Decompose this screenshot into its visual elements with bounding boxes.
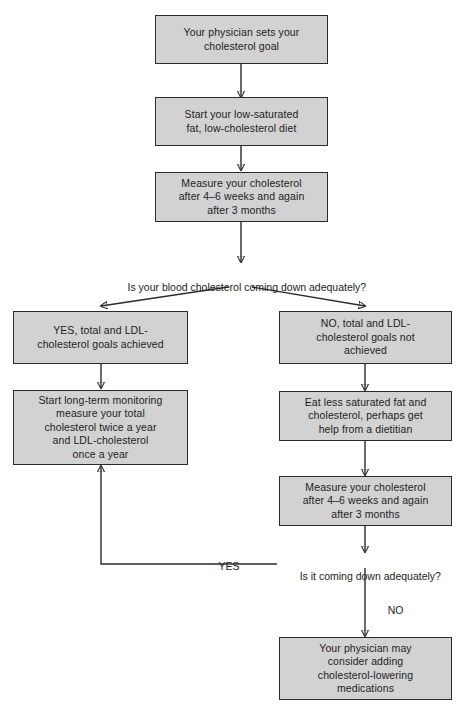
node-eat-less-fat: Eat less saturated fat and cholesterol, …: [279, 391, 452, 441]
node-yes-goals-achieved: YES, total and LDL- cholesterol goals ac…: [13, 311, 188, 364]
node-set-goal-text: Your physician sets your cholesterol goa…: [184, 26, 300, 53]
node-eat-less-fat-text: Eat less saturated fat and cholesterol, …: [305, 396, 427, 437]
node-measure-first: Measure your cholesterol after 4–6 weeks…: [155, 172, 328, 222]
node-no-goals-not-achieved: NO, total and LDL- cholesterol goals not…: [279, 311, 452, 364]
node-long-term-monitoring-text: Start long-term monitoring measure your …: [39, 394, 163, 462]
node-measure-first-text: Measure your cholesterol after 4–6 weeks…: [179, 177, 305, 218]
decision-second-question-text: Is it coming down adequately?: [300, 570, 441, 582]
edge-label-yes: YES: [207, 547, 240, 586]
node-no-goals-not-achieved-text: NO, total and LDL- cholesterol goals not…: [316, 317, 414, 358]
node-measure-second-text: Measure your cholesterol after 4–6 weeks…: [303, 481, 429, 522]
edge-label-no-text: NO: [388, 604, 404, 616]
node-start-diet: Start your low-saturated fat, low-choles…: [155, 97, 328, 146]
node-medications-text: Your physician may consider adding chole…: [318, 642, 413, 696]
decision-second-question: Is it coming down adequately?: [288, 557, 441, 596]
decision-first-question: Is your blood cholesterol coming down ad…: [100, 268, 382, 307]
edge-yes-loop-back: [101, 466, 277, 564]
edge-label-no: NO: [376, 591, 403, 630]
node-start-diet-text: Start your low-saturated fat, low-choles…: [185, 108, 299, 135]
decision-first-question-text: Is your blood cholesterol coming down ad…: [127, 281, 366, 293]
node-medications: Your physician may consider adding chole…: [279, 637, 452, 700]
edge-label-yes-text: YES: [218, 560, 239, 572]
node-measure-second: Measure your cholesterol after 4–6 weeks…: [279, 476, 452, 526]
flowchart-diagram: Your physician sets your cholesterol goa…: [0, 0, 473, 710]
node-long-term-monitoring: Start long-term monitoring measure your …: [13, 390, 188, 465]
node-yes-goals-achieved-text: YES, total and LDL- cholesterol goals ac…: [37, 324, 163, 351]
node-set-goal: Your physician sets your cholesterol goa…: [155, 15, 328, 64]
